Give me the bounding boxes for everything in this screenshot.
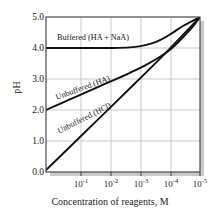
x-tick-label: 10-5 bbox=[185, 178, 215, 189]
x-tick-label: 10-1 bbox=[66, 178, 96, 189]
ph-buffer-chart: pH 5.0 4.0 3.0 2.0 1.0 0.0 bbox=[0, 0, 220, 219]
x-axis-title: Concentration of reagents, M bbox=[0, 196, 220, 207]
x-tick-label: 10-3 bbox=[126, 178, 156, 189]
x-tick-label: 10-4 bbox=[156, 178, 186, 189]
x-tick-label: 10-2 bbox=[96, 178, 126, 189]
annotation-buffered: Buffered (HA + NaA) bbox=[57, 33, 129, 42]
